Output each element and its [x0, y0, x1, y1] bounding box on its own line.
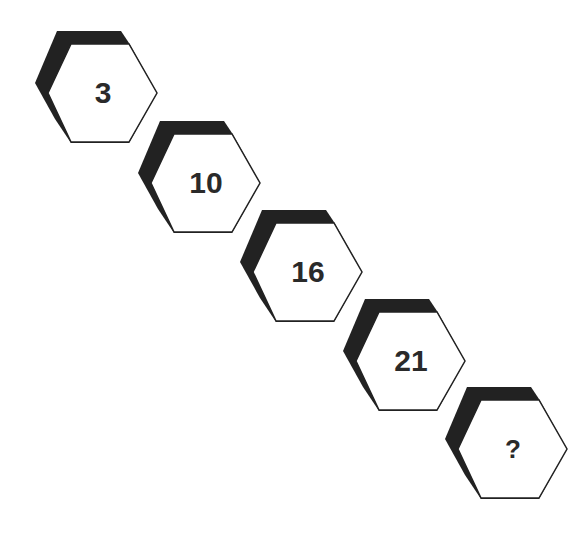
question-mark: ?: [457, 399, 569, 499]
hexagon-5-unknown: ?: [457, 399, 569, 499]
